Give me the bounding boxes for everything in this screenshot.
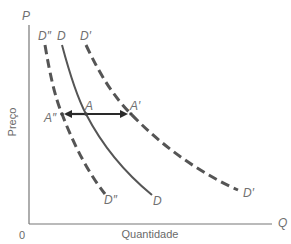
point-label-a-double-prime: A″	[43, 111, 57, 125]
origin-label: 0	[19, 229, 25, 241]
x-axis-label: Quantidade	[122, 228, 179, 240]
x-axis-symbol: Q	[278, 216, 287, 230]
curve-label-bottom-d: D	[153, 194, 162, 208]
point-a-double-prime	[60, 112, 64, 116]
curve-label-top-d-prime: D′	[80, 29, 92, 43]
curve-label-bottom-d-prime: D′	[243, 186, 255, 200]
y-axis-symbol: P	[22, 9, 30, 23]
curve-label-bottom-d-double-prime: D″	[104, 193, 118, 207]
point-label-a: A	[84, 99, 93, 113]
point-label-a-prime: A′	[129, 99, 141, 113]
demand-shift-diagram: P Q 0 Quantidade Preço D″ D D′ D″ D D′ A…	[0, 0, 291, 244]
y-axis-label: Preço	[6, 108, 18, 137]
curve-label-top-d: D	[57, 29, 66, 43]
curve-label-top-d-double-prime: D″	[38, 29, 52, 43]
demand-curve-d-prime	[86, 45, 238, 190]
